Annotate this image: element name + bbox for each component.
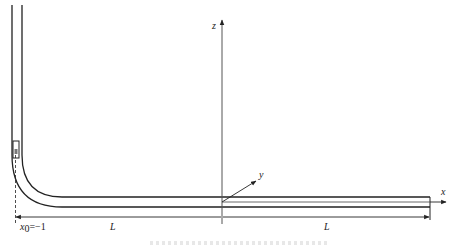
x-axis-label: x bbox=[440, 186, 446, 197]
dimension-left-label: L bbox=[109, 221, 116, 232]
origin-label: x0=−1 bbox=[19, 221, 46, 234]
origin-label-value: =−1 bbox=[29, 221, 45, 232]
figure-caption-clipped bbox=[150, 241, 330, 245]
y-axis bbox=[222, 181, 256, 202]
pipe-inner-wall bbox=[22, 5, 430, 197]
particle-inner bbox=[15, 149, 18, 154]
pipe-diagram: z y x L L x0=−1 bbox=[0, 0, 456, 245]
dimension-right-label: L bbox=[323, 221, 330, 232]
z-axis-label: z bbox=[211, 20, 216, 31]
pipe-outer-wall bbox=[12, 5, 430, 207]
y-axis-label: y bbox=[258, 169, 264, 180]
